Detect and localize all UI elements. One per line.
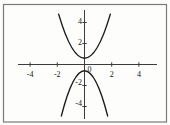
y-tick-label: 4 bbox=[78, 17, 82, 26]
x-tick-label: -4 bbox=[27, 70, 34, 79]
y-tick-label: -4 bbox=[75, 99, 82, 108]
scanned-figure: -4-22442-2-40 bbox=[0, 0, 170, 125]
x-tick-label: 2 bbox=[110, 70, 114, 79]
x-tick-label: 4 bbox=[137, 70, 141, 79]
y-tick-label: -2 bbox=[75, 78, 82, 87]
x-tick-label: -2 bbox=[54, 70, 61, 79]
function-plot: -4-22442-2-40 bbox=[0, 0, 170, 125]
y-tick-label: 2 bbox=[78, 38, 82, 47]
